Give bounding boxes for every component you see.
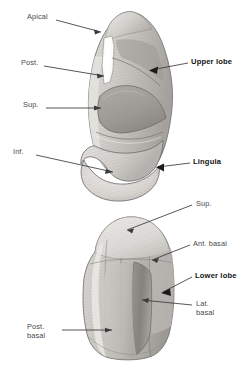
lower-lobe-shape <box>83 217 174 360</box>
label-ant-basal: Ant. basal <box>193 240 227 249</box>
lung-segments-figure: Apical Post. Sup. Inf. Upper lobe Lingul… <box>0 0 251 373</box>
label-sup-lower: Sup. <box>196 200 212 209</box>
label-lingula: Lingula <box>193 158 221 167</box>
label-inf: Inf. <box>13 148 24 157</box>
label-upper-lobe: Upper lobe <box>191 58 232 67</box>
label-lat-basal: Lat. basal <box>196 300 214 317</box>
label-post-basal: Post. basal <box>27 323 45 340</box>
label-apical: Apical <box>27 13 48 22</box>
label-lower-lobe: Lower lobe <box>195 272 237 281</box>
label-post: Post. <box>21 59 38 68</box>
label-sup-upper: Sup. <box>23 101 39 110</box>
